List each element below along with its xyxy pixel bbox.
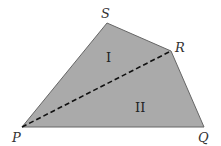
diagram-svg: S R P Q I II	[0, 0, 221, 146]
quadrilateral-pqrs	[22, 23, 204, 127]
quadrilateral-diagram: S R P Q I II	[0, 0, 221, 146]
vertex-label-r: R	[174, 40, 185, 55]
region-label-2: II	[135, 100, 145, 115]
vertex-label-s: S	[101, 6, 110, 21]
vertex-label-q: Q	[198, 130, 209, 145]
vertex-label-p: P	[11, 130, 21, 145]
region-label-1: I	[106, 50, 111, 65]
